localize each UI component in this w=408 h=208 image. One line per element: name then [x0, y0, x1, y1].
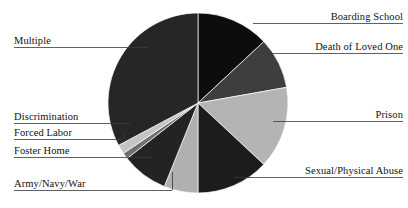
pie-label-sexual-physical-abuse: Sexual/Physical Abuse — [305, 165, 403, 176]
pie-label-army-navy-war: Army/Navy/War — [14, 178, 86, 189]
pie-slices-group — [108, 13, 288, 193]
pie-label-discrimination: Discrimination — [14, 111, 79, 122]
pie-label-death-of-loved-one: Death of Loved One — [315, 41, 403, 52]
pie-label-forced-labor: Forced Labor — [14, 127, 72, 138]
pie-label-boarding-school: Boarding School — [331, 11, 403, 22]
pie-chart-svg: Boarding School Death of Loved One Priso… — [0, 0, 408, 208]
pie-chart-figure: Boarding School Death of Loved One Priso… — [0, 0, 408, 208]
pie-label-prison: Prison — [376, 109, 404, 120]
pie-label-foster-home: Foster Home — [14, 145, 70, 156]
pie-label-multiple: Multiple — [14, 35, 51, 46]
